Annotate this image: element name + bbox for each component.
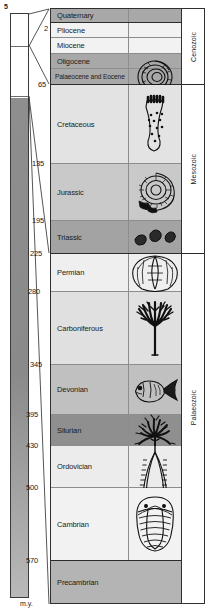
fossil-cell-empty xyxy=(128,23,181,37)
age-label: 2 xyxy=(26,24,48,33)
ammonite-fossil-icon xyxy=(128,164,181,220)
period-label: Precambrian xyxy=(51,578,98,587)
period-row-palaeocene-and-eocene[interactable]: Palaeocene and Eocene xyxy=(51,69,181,85)
brachiopod-fossil-icon xyxy=(128,254,181,291)
period-row-triassic[interactable]: Triassic xyxy=(51,221,181,254)
era-label: Palaeozoic xyxy=(190,390,197,425)
period-label: Pliocene xyxy=(51,26,85,35)
trilobite-fossil-icon xyxy=(128,488,181,560)
era-palaeozoic[interactable]: Palaeozoic xyxy=(182,254,204,561)
period-row-miocene[interactable]: Miocene xyxy=(51,38,181,54)
period-label: Carboniferous xyxy=(51,324,103,333)
inset-divider-1 xyxy=(11,46,28,47)
period-label: Miocene xyxy=(51,41,85,50)
fossil-plant-icon xyxy=(128,292,181,364)
age-label: 195 xyxy=(22,216,44,225)
period-label: Ordovician xyxy=(51,462,92,471)
period-row-quaternary[interactable]: Quaternary xyxy=(51,9,181,23)
era-label: Mesozoic xyxy=(190,154,197,184)
period-row-pliocene[interactable]: Pliocene xyxy=(51,23,181,38)
age-label: 65 xyxy=(24,80,46,89)
foraminifera-fossil-icon xyxy=(128,69,181,84)
inset-precambrian-fill xyxy=(11,98,28,597)
period-label: Palaeocene and Eocene xyxy=(51,73,125,80)
period-row-cretaceous[interactable]: Cretaceous xyxy=(51,85,181,164)
period-label: Triassic xyxy=(51,233,82,242)
period-row-cambrian[interactable]: Cambrian xyxy=(51,488,181,561)
age-label: 570 xyxy=(16,556,38,565)
period-row-carboniferous[interactable]: Carboniferous xyxy=(51,292,181,365)
graptolite-fossil-icon xyxy=(128,446,181,487)
inset-divider-2 xyxy=(11,96,28,97)
period-row-permian[interactable]: Permian xyxy=(51,254,181,292)
period-label: Silurian xyxy=(51,426,81,435)
era-label: Cenozoic xyxy=(190,32,197,62)
period-row-precambrian[interactable]: Precambrian xyxy=(51,561,181,603)
age-label: 395 xyxy=(16,410,38,419)
fossil-cell-empty xyxy=(128,38,181,53)
period-label: Cretaceous xyxy=(51,120,94,129)
era-cenozoic[interactable]: Cenozoic xyxy=(182,9,204,85)
axis-unit-label: m.y. xyxy=(20,600,33,607)
age-label: 345 xyxy=(20,360,42,369)
fossil-cell-empty xyxy=(128,9,181,22)
era-mesozoic[interactable]: Mesozoic xyxy=(182,85,204,254)
age-label: 280 xyxy=(18,287,40,296)
period-label: Oligocene xyxy=(51,57,90,66)
period-label: Cambrian xyxy=(51,520,89,529)
shell-fragments-fossil-icon xyxy=(128,221,181,253)
age-label: 500 xyxy=(16,483,38,492)
age-label: 225 xyxy=(20,249,42,258)
age-label: 135 xyxy=(22,159,44,168)
period-label: Quaternary xyxy=(51,11,94,20)
era-column: CenozoicMesozoicPalaeozoic xyxy=(182,8,205,604)
period-label: Permian xyxy=(51,268,84,277)
period-label: Jurassic xyxy=(51,188,84,197)
inset-thickness-bar xyxy=(10,13,29,598)
age-label: 430 xyxy=(16,441,38,450)
period-row-ordovician[interactable]: Ordovician xyxy=(51,446,181,488)
period-row-jurassic[interactable]: Jurassic xyxy=(51,164,181,221)
geological-period-column: QuaternaryPlioceneMioceneOligocenePalaeo… xyxy=(50,8,182,604)
period-label: Devonian xyxy=(51,385,88,394)
inset-top-label: 5 xyxy=(4,3,8,10)
sponge-fossil-icon xyxy=(128,85,181,163)
